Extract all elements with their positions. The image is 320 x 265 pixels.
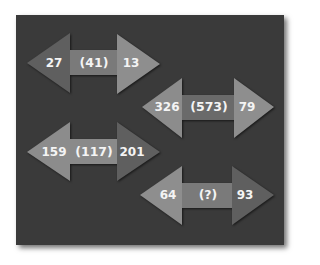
middle-number: (?) — [182, 188, 234, 202]
right-number: 93 — [232, 188, 258, 202]
middle-number: (41) — [70, 56, 118, 70]
arrow-1: 27 (41) 13 — [27, 33, 161, 95]
arrow-4: 64 (?) 93 — [140, 166, 276, 228]
middle-number: (117) — [70, 145, 118, 159]
middle-number: (573) — [182, 100, 236, 114]
left-number: 27 — [39, 56, 69, 70]
right-number: 201 — [115, 145, 149, 159]
arrow-2: 326 (573) 79 — [142, 78, 276, 140]
left-number: 64 — [154, 188, 182, 202]
right-number: 79 — [234, 100, 260, 114]
left-number: 326 — [150, 100, 184, 114]
right-number: 13 — [117, 56, 145, 70]
left-number: 159 — [37, 145, 71, 159]
